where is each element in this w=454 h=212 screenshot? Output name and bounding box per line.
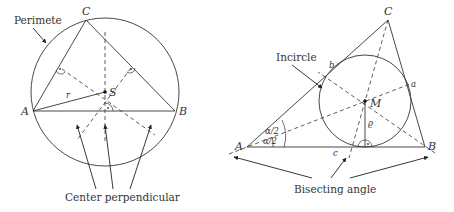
vertex-label-b-left: B	[178, 105, 187, 118]
angle-label-lower: α/2	[263, 136, 277, 146]
triangle-abc-left	[33, 20, 175, 111]
right-angle-dot-incircle	[367, 143, 369, 145]
perimete-callout-arrow	[33, 28, 46, 43]
radius-label-r: r	[66, 90, 71, 100]
side-label-c: c	[333, 148, 338, 158]
bisecting-angle-caption: Bisecting angle	[294, 183, 376, 195]
inradius-label: ϱ	[368, 118, 373, 128]
perpendicular-bisector-ac	[62, 69, 155, 135]
side-label-b: b	[329, 60, 334, 70]
angle-bisector-c	[349, 20, 388, 158]
vertex-label-a-right: A	[234, 140, 243, 153]
right-angle-dot-bc	[130, 68, 132, 70]
vertex-label-c-right: C	[384, 5, 393, 18]
bisecting-angle-arrow-1	[234, 157, 312, 178]
side-label-a: a	[411, 79, 416, 89]
right-angle-marker-ab	[105, 103, 113, 111]
incircle-callout-arrow	[292, 65, 322, 88]
center-perpendicular-arrow-1	[77, 125, 96, 189]
angle-label-upper: α/2	[265, 126, 279, 136]
center-label-m: M	[369, 97, 382, 110]
bisecting-angle-arrow-3	[350, 157, 428, 178]
vertex-label-c-left: C	[82, 5, 91, 18]
incircle-callout-label: Incircle	[276, 51, 317, 63]
vertex-label-b-right: B	[427, 140, 436, 153]
center-perpendicular-arrow-3	[130, 125, 151, 189]
vertex-label-a-left: A	[20, 105, 29, 118]
incircle-figure: C A B a b c M ϱ α/2 α/2 Incircle Bisecti…	[229, 5, 436, 195]
right-angle-dot-ac	[59, 68, 61, 70]
center-point-s	[103, 90, 107, 94]
circumcircle-figure: C A B S r Perimete Center perpendicular	[14, 5, 187, 203]
center-perpendicular-caption: Center perpendicular	[65, 191, 181, 203]
right-angle-dot-ab	[107, 107, 109, 109]
bisecting-angle-arrow-2	[331, 158, 346, 178]
center-point-m	[363, 99, 367, 103]
perpendicular-bisector-bc	[77, 68, 131, 140]
geometry-diagram: C A B S r Perimete Center perpendicular …	[0, 0, 454, 212]
center-perpendicular-arrow-2	[105, 125, 113, 189]
center-label-s: S	[109, 86, 117, 99]
perimete-callout-label: Perimete	[14, 14, 62, 26]
